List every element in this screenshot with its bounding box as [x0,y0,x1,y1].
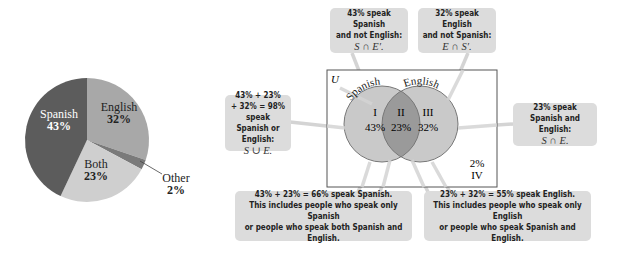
pie-label-english: English 32% [94,101,144,125]
callout-text: Spanish and English: [516,113,594,135]
pie-label-both: Both 23% [76,158,116,182]
callout-text: and not English: [336,30,402,41]
callout-text: 43% + 23% [235,90,281,101]
callout-math: S ∩ E. [541,135,568,147]
pie-label-other-pct: 2% [156,184,196,196]
pie-label-spanish-pct: 43% [34,120,84,132]
callout-text: 23% + 32% = 55% speak English. [440,189,575,200]
callout-english-only: 32% speak English and not Spanish: E ∩ S… [418,8,496,53]
callout-text: 32% speak English [421,8,493,30]
callout-text: and not Spanish: [423,30,492,41]
pie-label-other: Other 2% [156,172,196,196]
region-3-roman: III [413,106,443,118]
callout-text: + 32% = 98% speak [228,101,288,123]
pie-chart [25,78,162,202]
callout-intersection: 23% speak Spanish and English: S ∩ E. [513,103,597,146]
pie-label-spanish: Spanish 43% [34,108,84,132]
callout-text: 43% speak Spanish [333,8,405,30]
callout-math: S ∩ E′. [354,41,383,53]
callout-spanish-only: 43% speak Spanish and not English: S ∩ E… [330,8,408,53]
diagram-canvas: Spanish English Spanish 43% English 32% … [0,0,621,254]
callout-text: This includes people who speak only Span… [238,200,409,222]
callout-text: This includes people who speak only Engl… [427,200,588,222]
region-4-pct: 2% [462,157,492,169]
venn-region-2: II 23% [386,106,416,133]
pie-label-english-pct: 32% [94,113,144,125]
region-3-pct: 32% [413,121,443,133]
region-4-roman: IV [462,169,492,181]
callout-speak-english: 23% + 32% = 55% speak English. This incl… [424,191,591,241]
universe-label: U [331,73,339,85]
callout-text: or people who speak Spanish and English. [427,222,588,244]
region-2-roman: II [386,106,416,118]
callout-speak-spanish: 43% + 23% = 66% speak Spanish. This incl… [235,191,412,241]
region-2-pct: 23% [386,121,416,133]
callout-text: or people who speak both Spanish and Eng… [238,222,409,244]
callout-math: E ∩ S′. [442,41,471,53]
venn-region-4: 2% IV [462,157,492,181]
pie-label-both-pct: 23% [76,170,116,182]
callout-union: 43% + 23% + 32% = 98% speak Spanish or E… [225,95,291,151]
callout-text: Spanish or English: [228,123,288,145]
callout-text: 43% + 23% = 66% speak Spanish. [255,189,393,200]
venn-region-3: III 32% [413,106,443,133]
callout-math: S ∪ E. [244,145,272,157]
callout-text: 23% speak [533,102,577,113]
